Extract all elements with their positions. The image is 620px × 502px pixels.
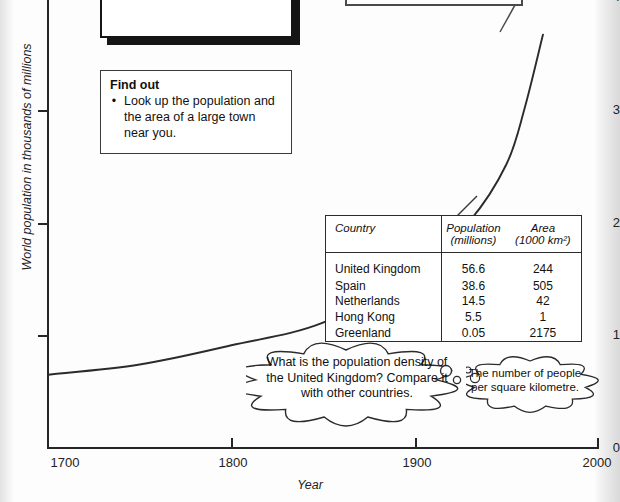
table-row: United Kingdom56.6244 [326, 253, 581, 278]
cell-population: 38.6 [442, 278, 511, 294]
cell-area: 42 [511, 294, 581, 310]
find-out-item-text: Look up the population and the area of a… [124, 93, 282, 141]
cell-country: Netherlands [326, 294, 442, 310]
cell-area: 505 [511, 278, 581, 294]
cell-population: 14.5 [442, 294, 511, 310]
header-population-main: Population [446, 222, 500, 234]
bullet-icon: • [110, 93, 118, 141]
find-out-item: • Look up the population and the area of… [110, 93, 282, 141]
cell-area: 2175 [511, 325, 581, 341]
country-data-table: Country Population (millions) Area (1000… [325, 215, 582, 342]
table-header-row: Country Population (millions) Area (1000… [326, 216, 581, 253]
bubble-answer-text: The number of people per square kilometr… [468, 366, 582, 395]
table-row: Netherlands14.542 [326, 294, 581, 310]
find-out-box: Find out • Look up the population and th… [100, 70, 292, 154]
find-out-title: Find out [110, 78, 282, 92]
cell-area: 1 [511, 309, 581, 325]
thought-bubble-density-answer: The number of people per square kilometr… [452, 353, 598, 425]
cell-area: 244 [511, 253, 581, 278]
bubble-density-text: What is the population density of the Un… [264, 355, 450, 402]
header-population-unit: (millions) [442, 234, 505, 246]
header-area-unit: (1000 km²) [511, 234, 575, 246]
header-population: Population (millions) [442, 216, 511, 253]
header-area: Area (1000 km²) [511, 216, 581, 253]
cell-population: 5.5 [442, 309, 511, 325]
table-row: Hong Kong5.51 [326, 309, 581, 325]
topright-cutoff-box [345, 0, 523, 6]
header-country: Country [326, 216, 442, 253]
cell-country: Hong Kong [326, 309, 442, 325]
textbook-page-scan: 4 3 2 1 0 1700 1800 1900 2000 World popu… [0, 0, 620, 502]
thought-bubble-density-question: What is the population density of the Un… [246, 341, 468, 434]
table-row: Greenland0.052175 [326, 325, 581, 341]
cell-country: United Kingdom [326, 253, 442, 278]
cell-population: 56.6 [442, 253, 511, 278]
cell-country: Greenland [326, 325, 442, 341]
header-area-main: Area [531, 222, 555, 234]
table-row: Spain38.6505 [326, 278, 581, 294]
cell-country: Spain [326, 278, 442, 294]
cell-population: 0.05 [442, 325, 511, 341]
question-callout-box: room in the world for all the expected p… [100, 0, 293, 38]
